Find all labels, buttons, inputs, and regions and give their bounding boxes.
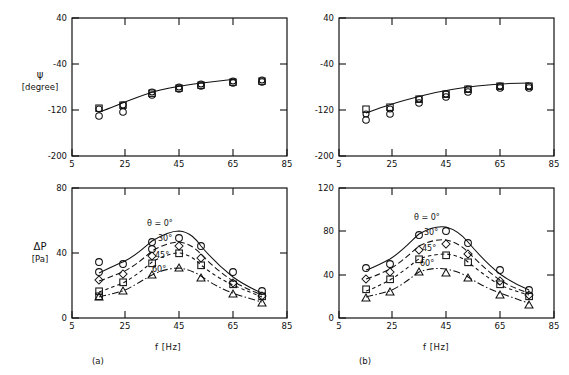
series-curve-45deg [99,253,262,297]
panel-caption-a: (a) [92,356,104,366]
delta-p-symbol: ΔP [34,241,47,252]
svg-text:5: 5 [69,321,74,331]
svg-text:-120: -120 [315,105,334,115]
x-axis-label-b: f [Hz] [423,342,449,352]
svg-text:45: 45 [174,159,185,169]
svg-text:65: 65 [228,159,239,169]
y-tick-labels: 120 80 40 0 [318,183,334,323]
svg-text:-200: -200 [315,151,334,161]
panel-b-phase: 40 -40 -120 -200 5 25 45 65 85 [277,0,569,185]
fit-curve [366,83,529,113]
series-curve-60deg [366,268,529,303]
x-tick-labels: 5 25 45 65 85 [69,159,292,169]
x-axis-label-a: f [Hz] [155,342,181,352]
panel-b-amplitude: 120 80 40 0 5 25 45 65 85 [277,180,569,375]
psi-unit: [degree] [22,82,58,92]
series-markers-30deg [362,240,533,299]
data-markers-circle-alt [96,77,265,112]
series-markers-45deg [96,250,266,300]
svg-text:5: 5 [336,159,341,169]
svg-text:25: 25 [387,321,398,331]
panel-b-phase-svg: 40 -40 -120 -200 5 25 45 65 85 [277,0,569,185]
phase-axis-label-a: ψ [degree] [12,68,68,93]
series-curve-30deg [366,240,529,293]
svg-text:45: 45 [174,321,185,331]
y-ticks [72,188,287,318]
series-label-30deg: 30° [158,234,172,243]
svg-text:5: 5 [336,321,341,331]
series-label-30deg: 30° [424,228,438,237]
svg-text:40: 40 [56,13,67,23]
svg-text:40: 40 [323,13,334,23]
svg-text:80: 80 [56,183,67,193]
svg-text:85: 85 [549,159,560,169]
psi-symbol: ψ [37,69,44,80]
x-ticks [339,188,554,318]
svg-text:80: 80 [323,226,334,236]
svg-text:-200: -200 [48,151,67,161]
series-label-0deg: θ = 0° [414,213,440,222]
series-label-45deg: 45° [422,244,436,253]
series-label-0deg: θ = 0° [147,219,173,228]
y-tick-labels: 40 -40 -120 -200 [315,13,334,161]
svg-text:-40: -40 [320,59,334,69]
series-label-60deg: 60° [152,265,166,274]
svg-text:25: 25 [120,159,131,169]
x-ticks [72,188,287,318]
panel-caption-b: (b) [359,356,371,366]
plot-frame [339,18,554,156]
series-label-60deg: 60° [420,259,434,268]
svg-text:25: 25 [387,159,398,169]
svg-text:0: 0 [62,313,67,323]
amplitude-axis-label-a: ΔP [Pa] [14,240,66,265]
svg-text:65: 65 [495,321,506,331]
svg-text:45: 45 [441,321,452,331]
svg-text:5: 5 [69,159,74,169]
panel-a-amplitude-svg: 80 40 0 5 25 45 65 85 [0,180,292,375]
y-ticks [339,188,554,318]
svg-text:25: 25 [120,321,131,331]
series-curve-60deg [99,268,262,302]
x-tick-labels: 5 25 45 65 85 [336,321,559,331]
plot-frame [72,18,287,156]
series-label-45deg: 45° [155,251,169,260]
x-ticks [72,18,287,156]
data-markers-square [96,78,265,111]
delta-p-unit: [Pa] [32,254,49,264]
panel-a-amplitude: ΔP [Pa] 80 40 0 [0,180,292,375]
panel-a-phase: ψ [degree] 40 -40 -120 -200 [0,0,292,185]
svg-text:40: 40 [323,270,334,280]
x-tick-labels: 5 25 45 65 85 [336,159,559,169]
svg-text:65: 65 [228,321,239,331]
svg-text:45: 45 [441,159,452,169]
data-markers-square [363,83,532,112]
svg-text:-120: -120 [48,105,67,115]
svg-text:65: 65 [495,159,506,169]
x-tick-labels: 5 25 45 65 85 [69,321,292,331]
y-ticks [72,18,287,156]
y-ticks [339,18,554,156]
plot-frame [72,188,287,318]
svg-text:0: 0 [329,313,334,323]
svg-text:120: 120 [318,183,334,193]
figure-root: ψ [degree] 40 -40 -120 -200 [0,0,569,375]
plot-frame [339,188,554,318]
svg-text:85: 85 [549,321,560,331]
x-ticks [339,18,554,156]
